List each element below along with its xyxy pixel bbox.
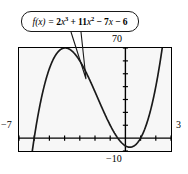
formula-callout-box: f(x) = 2x3 + 11x2 − 7x − 6	[21, 11, 139, 32]
plot-canvas	[19, 48, 171, 151]
formula-equals: =	[48, 18, 54, 28]
y-max-label: 70	[112, 33, 122, 44]
formula-term1-exp: 3	[65, 15, 68, 22]
cubic-graph-figure: f(x) = 2x3 + 11x2 − 7x − 6 70 −7 3 −10	[0, 0, 188, 174]
y-min-label: −10	[106, 153, 122, 164]
formula-minus-2: −	[115, 18, 120, 28]
formula-term2-exp: 2	[91, 15, 94, 22]
x-min-label: −7	[1, 119, 12, 130]
x-max-label: 3	[176, 119, 181, 130]
formula-term2-coef: 11	[78, 18, 87, 28]
formula-term4: 6	[123, 18, 128, 28]
formula-label: f(x) = 2x3 + 11x2 − 7x − 6	[33, 15, 128, 27]
plot-window	[18, 47, 172, 152]
formula-term3-var: x	[109, 18, 113, 28]
formula-fn-var: (x)	[35, 18, 45, 28]
formula-minus-1: −	[96, 18, 101, 28]
formula-plus-1: +	[71, 18, 76, 28]
cubic-curve	[32, 48, 162, 151]
